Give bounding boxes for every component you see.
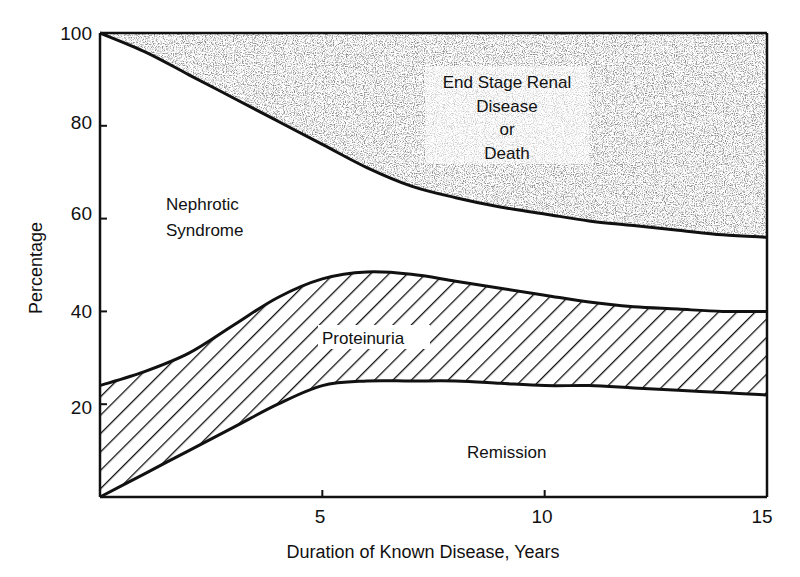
label-remission: Remission — [467, 443, 546, 462]
label-nephrotic-line1: Nephrotic — [166, 195, 239, 214]
label-esrd-line4: Death — [484, 144, 529, 163]
y-axis-title: Percentage — [26, 222, 46, 314]
x-tick-labels: 5 10 15 — [315, 506, 773, 527]
label-esrd-death: End Stage Renal Disease or Death — [425, 66, 589, 164]
y-tick-label-60: 60 — [71, 203, 92, 224]
y-tick-label-80: 80 — [71, 112, 92, 133]
region-proteinuria — [100, 272, 767, 497]
label-nephrotic-line2: Syndrome — [166, 221, 243, 240]
x-tick-label-5: 5 — [315, 506, 326, 527]
chart: 100 80 60 40 20 5 10 15 Duration of Know… — [0, 0, 800, 577]
label-esrd-line2: Disease — [476, 97, 537, 116]
label-esrd-line1: End Stage Renal — [443, 73, 572, 92]
x-tick-label-15: 15 — [751, 506, 772, 527]
x-axis-title: Duration of Known Disease, Years — [286, 542, 559, 562]
x-tick-label-10: 10 — [531, 506, 552, 527]
y-tick-label-40: 40 — [71, 301, 92, 322]
y-tick-labels: 100 80 60 40 20 — [60, 23, 92, 418]
y-tick-label-20: 20 — [71, 397, 92, 418]
label-esrd-line3: or — [499, 120, 514, 139]
label-nephrotic-syndrome: Nephrotic Syndrome — [166, 195, 243, 240]
label-proteinuria: Proteinuria — [318, 325, 430, 349]
y-tick-label-100: 100 — [60, 23, 92, 44]
label-proteinuria-text: Proteinuria — [322, 329, 405, 348]
